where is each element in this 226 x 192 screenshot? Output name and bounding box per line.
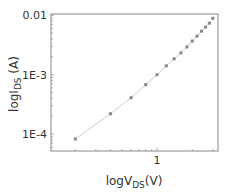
x-axis-title: logVDS(V) (106, 174, 163, 190)
data-point-marker (208, 22, 211, 25)
data-point-marker (191, 40, 194, 43)
data-point-marker (156, 73, 159, 76)
x-axis-title-sub: DS (132, 180, 145, 190)
y-axis-title-unit: (A) (7, 56, 21, 77)
fit-line (75, 18, 213, 139)
log-log-chart: 0.011E-31E-4 1 logVDS(V) logIDS (A) (0, 0, 226, 192)
data-point-marker (200, 30, 203, 33)
series-line (75, 18, 213, 139)
data-point-marker (179, 51, 182, 54)
x-axis-title-unit: (V) (145, 174, 163, 188)
y-axis-title-main: logI (7, 90, 21, 112)
plot-frame (51, 14, 218, 151)
y-axis-title: logIDS (A) (7, 56, 23, 112)
x-axis-tick-labels: 1 (154, 154, 161, 167)
data-point-marker (196, 35, 199, 38)
y-axis-title-sub: DS (13, 77, 23, 90)
data-point-marker (165, 64, 168, 67)
x-axis-title-main: logV (106, 174, 133, 188)
data-point-marker (173, 57, 176, 60)
y-tick-label: 1E-3 (22, 69, 47, 82)
y-tick-label: 0.01 (23, 9, 48, 22)
data-point-marker (109, 112, 112, 115)
x-tick-label: 1 (154, 154, 161, 167)
data-points (74, 17, 215, 141)
data-point-marker (211, 17, 214, 20)
data-point-marker (74, 137, 77, 140)
data-point-marker (144, 83, 147, 86)
data-point-marker (185, 45, 188, 48)
data-point-marker (204, 26, 207, 29)
y-axis-tick-labels: 0.011E-31E-4 (22, 9, 47, 141)
data-point-marker (130, 96, 133, 99)
y-tick-label: 1E-4 (22, 128, 47, 141)
